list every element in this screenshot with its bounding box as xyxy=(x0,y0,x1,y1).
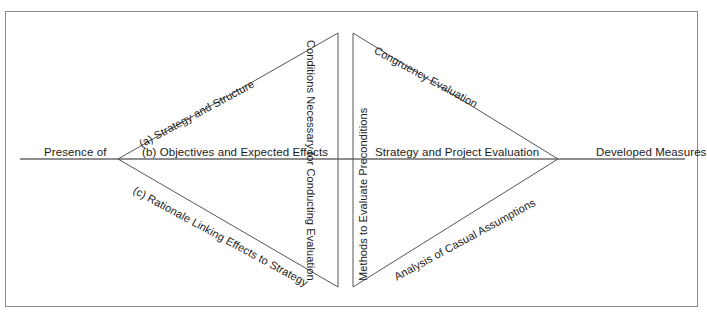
label-objectives-and-expected-effects: (b) Objectives and Expected Effects xyxy=(142,146,328,158)
edge-lower-right xyxy=(353,159,558,287)
label-developed-measures: Developed Measures xyxy=(596,146,706,158)
diagram-geometry xyxy=(0,0,707,318)
label-conditions-necessary-for-conducting-evaluation: Conditions Necessary for Conducting Eval… xyxy=(305,40,317,281)
label-methods-to-evaluate-preconditions: Methods to Evaluate Preconditions xyxy=(357,108,369,281)
label-strategy-and-project-evaluation: Strategy and Project Evaluation xyxy=(375,146,539,158)
label-presence-of: Presence of xyxy=(44,146,106,158)
diagram-canvas: Presence of (b) Objectives and Expected … xyxy=(0,0,707,318)
